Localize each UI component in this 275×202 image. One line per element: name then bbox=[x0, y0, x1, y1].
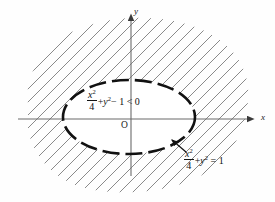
eq-y-term: y2 bbox=[200, 156, 208, 166]
x-axis-label: x bbox=[261, 112, 265, 122]
math-diagram: x y O x2 4 +y2− 1 < 0 x2 4 +y2 = 1 bbox=[0, 0, 275, 202]
ineq-relation: < 0 bbox=[127, 97, 140, 107]
ineq-numerator-exponent: 2 bbox=[92, 88, 95, 95]
eq-relation: = 1 bbox=[211, 156, 224, 166]
eq-numerator-exponent: 2 bbox=[189, 147, 192, 154]
ineq-denominator: 4 bbox=[87, 101, 97, 112]
eq-fraction-x-squared-over-4: x2 4 bbox=[184, 149, 194, 171]
y-axis-label: y bbox=[134, 6, 138, 16]
fraction-x-squared-over-4: x2 4 bbox=[87, 90, 97, 112]
ineq-minus-one: − 1 bbox=[111, 97, 124, 107]
eq-denominator: 4 bbox=[184, 160, 194, 171]
ineq-y-term: y2 bbox=[103, 97, 111, 107]
inequality-label: x2 4 +y2− 1 < 0 bbox=[86, 91, 140, 113]
equation-label: x2 4 +y2 = 1 bbox=[183, 150, 224, 172]
origin-label: O bbox=[121, 120, 128, 130]
